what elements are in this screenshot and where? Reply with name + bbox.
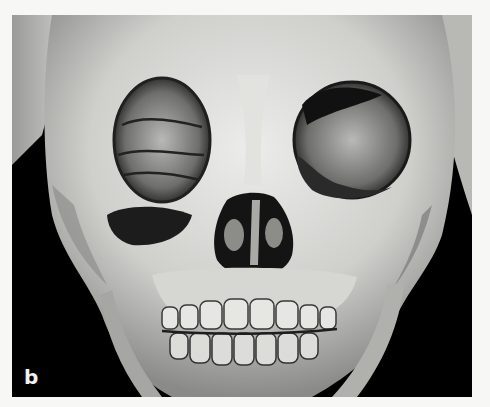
left-orbit bbox=[114, 78, 210, 202]
skull-rendering bbox=[12, 15, 472, 397]
lower-teeth bbox=[170, 333, 318, 365]
nasal-turbinate-right bbox=[265, 218, 283, 248]
ct-skull-image-panel: b bbox=[12, 15, 472, 397]
nasal-turbinate-left bbox=[224, 219, 244, 251]
panel-label: b bbox=[24, 367, 38, 387]
